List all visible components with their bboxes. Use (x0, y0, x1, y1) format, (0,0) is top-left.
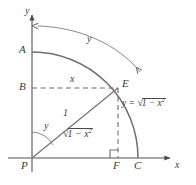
leg-label-sqrt-1-minus-x-squared: √1 − x2 (63, 128, 93, 139)
point-label-P: P (21, 160, 28, 171)
point-label-C: C (134, 160, 141, 171)
radicand-exponent: 2 (89, 127, 92, 134)
x-axis-label: x (175, 160, 179, 170)
point-label-F: F (113, 160, 120, 171)
point-label-B: B (19, 81, 26, 92)
radicand: 1 − x2 (68, 128, 93, 139)
angle-label-y: y (44, 121, 48, 131)
curve-equation-label: y = √1 − x2 (122, 98, 166, 109)
equation-radicand-exponent: 2 (162, 97, 165, 103)
math-figure: y x P A B E F C x 1 y y √1 − x2 y = √1 −… (0, 0, 196, 185)
equation-lhs: y = (122, 98, 135, 108)
hypotenuse-label-1: 1 (63, 108, 68, 118)
equation-radicand: 1 − x2 (142, 98, 166, 109)
y-axis-label: y (25, 6, 29, 16)
equation-radical-group: √1 − x2 (137, 98, 165, 109)
point-label-E: E (122, 78, 129, 89)
radical-group: √1 − x2 (63, 128, 93, 139)
radicand-text: 1 − x (68, 128, 89, 139)
point-label-A: A (19, 44, 26, 55)
right-angle-marker-icon (110, 150, 118, 158)
figure-canvas (0, 0, 196, 185)
arc-length-label-y: y (87, 34, 91, 44)
equation-radicand-text: 1 − x (142, 98, 162, 108)
segment-label-x: x (70, 74, 74, 84)
